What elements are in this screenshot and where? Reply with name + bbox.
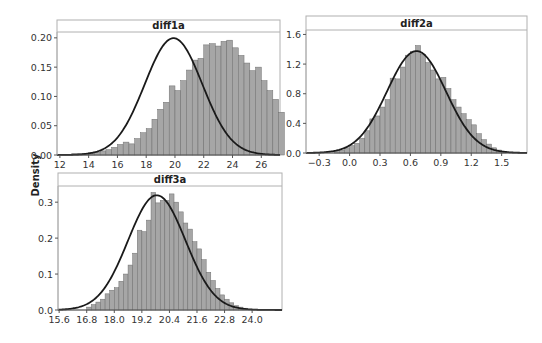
histogram-bar [192,242,197,310]
histogram-bar [106,150,112,155]
histogram-bar [142,232,147,310]
y-tick-label: 1.2 [286,59,301,70]
x-tick-label: 18 [140,159,152,170]
density-histogram-figure: Density diff1a12141618202224260.000.050.… [0,0,542,343]
y-tick-label: 0.2 [38,233,53,244]
histogram-bar [360,138,365,153]
histogram-bar [119,281,124,310]
histogram-bar [390,78,395,153]
histogram-bar [273,99,279,155]
y-tick-label: 0.15 [31,62,52,73]
histogram-bar [133,253,138,310]
x-tick-label: 19.2 [131,314,152,325]
x-tick-label: 20.4 [159,314,180,325]
histogram-bar [206,272,211,310]
x-tick-label: 14 [83,159,95,170]
y-tick-label: 0.20 [31,32,52,43]
x-tick-label: 0.3 [372,157,387,168]
histogram-bar [140,133,146,155]
y-tick-label: 0.1 [38,269,53,280]
panel-diff3a: diff3a15.616.818.019.220.421.622.824.00.… [38,173,282,325]
y-tick-label: 0.0 [286,148,301,159]
histogram-bar [123,142,129,155]
histogram-bar [405,55,410,153]
histogram-bar [146,129,152,155]
histogram-bar [256,67,262,155]
x-tick-label: 24.0 [242,314,263,325]
histogram-bar [91,305,96,310]
histogram-bar [421,54,426,153]
histogram-bar [365,131,370,153]
histogram-bar [123,274,128,310]
histogram-bar [461,114,466,153]
histogram-bar [400,67,405,153]
x-tick-label: 12 [54,159,66,170]
histogram-bar [436,79,441,153]
histogram-bar [244,63,250,155]
x-tick-label: 21.6 [186,314,207,325]
histogram-bar [410,51,415,153]
x-tick-label: 22 [198,159,210,170]
histogram-bar [395,79,400,153]
x-tick-label: −0.3 [308,157,331,168]
x-tick-label: 22.8 [214,314,235,325]
histogram-bar [345,148,350,153]
y-tick-label: 0.00 [31,150,52,161]
x-tick-label: 16 [111,159,123,170]
histogram-bar [135,139,141,155]
histogram-bar [163,102,169,155]
histogram-bar [215,46,221,155]
histogram-bar [197,249,202,310]
histogram-bar [466,120,471,153]
histogram-bar [129,144,135,155]
panel-diff1a: diff1a12141618202224260.000.050.100.150.… [31,20,284,170]
histogram-bar [112,147,118,155]
histogram-bar [380,107,385,153]
histogram-bar [160,200,165,310]
histogram-bar [202,260,207,310]
histogram-bar [100,151,106,155]
histogram-bar [385,100,390,153]
histogram-bar [355,143,360,153]
histogram-bar [152,119,158,155]
x-tick-label: 0.9 [433,157,448,168]
x-tick-label: 15.6 [49,314,70,325]
y-tick-label: 0.8 [286,88,301,99]
x-tick-label: 0.6 [403,157,418,168]
histogram-bar [165,200,170,310]
histogram-bar [221,41,227,155]
y-tick-label: 1.6 [286,29,301,40]
histogram-bar [181,81,187,155]
histogram-bar [238,55,244,155]
histogram-bar [261,81,267,155]
histogram-bar [233,48,239,155]
histogram-bar [101,299,106,310]
x-tick-label: 0.0 [342,157,357,168]
histogram-bar [426,63,431,153]
histogram-bar [375,116,380,153]
histogram-bar [267,91,273,155]
y-tick-label: 0.4 [286,118,301,129]
histogram-bar [169,86,175,155]
panel-title-diff3a: diff3a [154,174,186,185]
histogram-bar [350,146,355,153]
histogram-bar [105,294,110,310]
histogram-bar [128,265,133,310]
histogram-bar [415,46,420,153]
histogram-bar [117,144,123,155]
y-tick-label: 0.10 [31,91,52,102]
histogram-bar [192,60,198,155]
x-tick-label: 1.5 [494,157,509,168]
y-tick-label: 0.0 [38,305,53,316]
histogram-bar [110,290,115,310]
histogram-bar [198,58,204,155]
x-tick-label: 20 [169,159,181,170]
panel-diff2a: diff2a−0.30.00.30.60.91.21.50.00.40.81.2… [286,16,527,168]
histogram-bar [96,302,101,310]
histogram-bar [186,70,192,155]
panel-title-diff2a: diff2a [400,18,432,29]
x-tick-label: 16.8 [76,314,97,325]
histogram-bar [114,288,119,310]
histogram-bar [137,230,142,310]
histogram-bar [188,229,193,310]
